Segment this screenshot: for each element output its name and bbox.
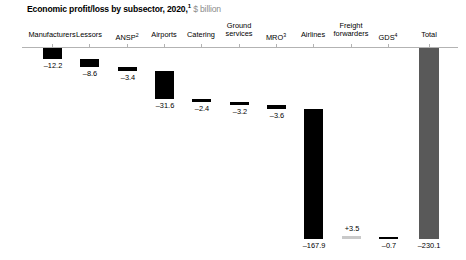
axis-tick-freight-forwarders [351, 44, 352, 47]
bar-total [419, 48, 439, 239]
value-label-freight-forwarders: +3.5 [326, 224, 378, 233]
bar-freight-forwarders [342, 236, 361, 239]
bar-airports [155, 71, 174, 99]
axis-tick-airports [164, 44, 165, 47]
axis-tick-lessons [89, 44, 90, 47]
category-label-mro-superscript: 3 [283, 32, 286, 38]
chart-title: Economic profit/loss by subsector, 2020,… [27, 3, 221, 14]
axis-tick-airlines [313, 44, 314, 47]
chart-title-unit: $ billion [191, 4, 221, 14]
bar-gds [379, 237, 398, 239]
category-label-gds-superscript: 4 [395, 32, 398, 38]
chart-title-main: Economic profit/loss by subsector, 2020, [27, 4, 188, 14]
bar-manufacturers [43, 48, 62, 59]
axis-tick-gds [388, 44, 389, 47]
waterfall-chart: Economic profit/loss by subsector, 2020,… [0, 0, 466, 260]
value-label-total: –230.1 [403, 241, 455, 250]
bar-catering [192, 99, 211, 102]
axis-tick-ground-services [239, 44, 240, 47]
category-label-total: Total [403, 31, 455, 39]
bar-mro [267, 105, 286, 109]
axis-tick-catering [201, 44, 202, 47]
bar-ansp [118, 67, 137, 71]
axis-tick-total [429, 44, 430, 47]
bar-lessors [80, 59, 99, 67]
bar-ground-services [230, 102, 249, 105]
axis-tick-mro [276, 44, 277, 47]
value-label-airlines: –167.9 [288, 241, 340, 250]
axis-tick-manufacturers [52, 44, 53, 47]
bar-airlines [304, 109, 323, 239]
axis-tick-ansp [127, 44, 128, 47]
zero-axis-line [22, 47, 458, 48]
value-label-mro: –3.6 [251, 111, 303, 120]
value-label-ansp: –3.4 [102, 73, 154, 82]
